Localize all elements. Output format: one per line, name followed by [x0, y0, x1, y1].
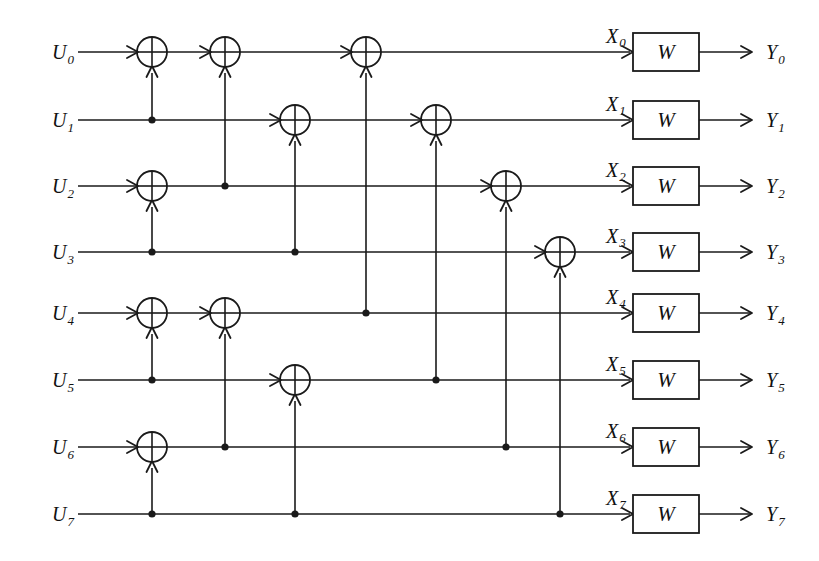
coded-label-x2: X2: [605, 159, 626, 184]
output-label-y0-subscript: 0: [778, 52, 785, 67]
channel-block-w-5[interactable]: W: [633, 361, 699, 399]
output-label-y5-base: Y: [766, 369, 779, 391]
output-label-y6-subscript: 6: [778, 447, 785, 462]
input-label-u6: U6: [52, 436, 74, 462]
coded-label-x3-base: X: [605, 225, 619, 247]
coded-label-x3-subscript: 3: [618, 235, 626, 250]
channel-block-w-0[interactable]: W: [633, 33, 699, 71]
coded-label-x2-base: X: [605, 159, 619, 181]
input-label-u5-subscript: 5: [67, 380, 74, 395]
input-label-u2: U2: [52, 175, 74, 201]
coded-label-x5: X5: [605, 353, 626, 378]
tap-dot-col2-row7: [291, 510, 298, 517]
coded-label-x5-subscript: 5: [619, 363, 626, 378]
input-label-u4-base: U: [52, 302, 68, 324]
coded-label-x4: X4: [605, 286, 626, 311]
input-label-u1: U1: [52, 109, 74, 135]
coded-label-x4-base: X: [605, 286, 619, 308]
coded-label-x1-base: X: [605, 93, 619, 115]
output-label-y2-base: Y: [766, 175, 779, 197]
input-label-u5-base: U: [52, 369, 68, 391]
coded-label-x6-base: X: [605, 420, 619, 442]
input-label-u3-subscript: 3: [66, 252, 74, 267]
output-label-y0-base: Y: [766, 41, 779, 63]
input-label-u1-subscript: 1: [67, 120, 74, 135]
coded-label-x5-base: X: [605, 353, 619, 375]
output-label-y3-base: Y: [766, 241, 779, 263]
polar-encoder-circuit: WWWWWWWW U0X0Y0U1X1Y1U2X2Y2U3X3Y3U4X4Y4U…: [0, 0, 819, 561]
output-label-y4-subscript: 4: [778, 313, 785, 328]
input-label-u0: U0: [52, 41, 74, 67]
tap-dot-col0-row7: [148, 510, 155, 517]
coded-label-x0-subscript: 0: [619, 35, 626, 50]
w-block-label-1: W: [657, 108, 677, 132]
output-label-y3: Y3: [766, 241, 785, 267]
tap-dot-col6-row7: [556, 510, 563, 517]
input-label-u3: U3: [52, 241, 74, 267]
channel-block-w-1[interactable]: W: [633, 101, 699, 139]
output-label-y5: Y5: [766, 369, 785, 395]
input-label-u2-subscript: 2: [67, 186, 74, 201]
output-label-y6-base: Y: [766, 436, 779, 458]
output-label-y1-base: Y: [766, 109, 779, 131]
coded-label-x6-subscript: 6: [619, 430, 626, 445]
coded-label-x7: X7: [605, 487, 626, 512]
output-label-y7-subscript: 7: [778, 514, 785, 529]
w-block-label-7: W: [657, 502, 677, 526]
output-label-y1: Y1: [766, 109, 785, 135]
coded-label-x3: X3: [605, 225, 626, 250]
coded-label-x0: X0: [605, 25, 626, 50]
coded-label-x6: X6: [605, 420, 626, 445]
input-label-u5: U5: [52, 369, 74, 395]
encoder-diagram: WWWWWWWW U0X0Y0U1X1Y1U2X2Y2U3X3Y3U4X4Y4U…: [0, 0, 819, 561]
w-block-label-2: W: [657, 174, 677, 198]
channel-block-w-4[interactable]: W: [633, 294, 699, 332]
input-label-u7: U7: [52, 503, 74, 529]
w-block-label-0: W: [657, 40, 677, 64]
output-label-y7-base: Y: [766, 503, 779, 525]
channel-block-w-6[interactable]: W: [633, 428, 699, 466]
input-label-u4: U4: [52, 302, 74, 328]
tap-dot-col3-row4: [362, 309, 369, 316]
output-label-y3-subscript: 3: [777, 252, 785, 267]
channel-block-w-2[interactable]: W: [633, 167, 699, 205]
output-label-y1-subscript: 1: [778, 120, 785, 135]
output-label-y0: Y0: [766, 41, 785, 67]
coded-label-x2-subscript: 2: [619, 169, 626, 184]
tap-dot-col0-row5: [148, 376, 155, 383]
input-label-u7-base: U: [52, 503, 68, 525]
xor-gates-layer: [127, 37, 575, 462]
coded-label-x1: X1: [605, 93, 626, 118]
output-label-y5-subscript: 5: [778, 380, 785, 395]
coded-label-x0-base: X: [605, 25, 619, 47]
tap-dot-col1-row6: [221, 443, 228, 450]
output-label-y4-base: Y: [766, 302, 779, 324]
tap-dot-col5-row6: [502, 443, 509, 450]
output-label-y2-subscript: 2: [778, 186, 785, 201]
coded-label-x4-subscript: 4: [619, 296, 626, 311]
w-block-label-6: W: [657, 435, 677, 459]
output-label-y4: Y4: [766, 302, 785, 328]
input-label-u2-base: U: [52, 175, 68, 197]
input-label-u6-base: U: [52, 436, 68, 458]
tap-dot-col0-row3: [148, 248, 155, 255]
channel-block-w-7[interactable]: W: [633, 495, 699, 533]
input-label-u1-base: U: [52, 109, 68, 131]
tap-dot-col0-row1: [148, 116, 155, 123]
input-label-u4-subscript: 4: [67, 313, 74, 328]
output-label-y2: Y2: [766, 175, 785, 201]
channel-block-w-3[interactable]: W: [633, 233, 699, 271]
channel-blocks-layer: WWWWWWWW: [633, 33, 752, 533]
coded-label-x7-base: X: [605, 487, 619, 509]
w-block-label-5: W: [657, 368, 677, 392]
input-label-u0-subscript: 0: [67, 52, 74, 67]
output-label-y6: Y6: [766, 436, 785, 462]
output-label-y7: Y7: [766, 503, 785, 529]
input-label-u7-subscript: 7: [67, 514, 74, 529]
input-label-u3-base: U: [52, 241, 68, 263]
input-label-u0-base: U: [52, 41, 68, 63]
input-label-u6-subscript: 6: [67, 447, 74, 462]
tap-dot-col2-row3: [291, 248, 298, 255]
tap-dot-col1-row2: [221, 182, 228, 189]
coded-label-x1-subscript: 1: [619, 103, 626, 118]
